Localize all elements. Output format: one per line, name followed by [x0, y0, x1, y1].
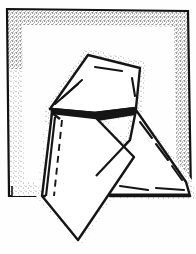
folded-paper-line-drawing: folded-paper-forms-in-stippled-frame das… — [0, 0, 196, 254]
figure-container: folded-paper-forms-in-stippled-frame das… — [0, 0, 196, 254]
